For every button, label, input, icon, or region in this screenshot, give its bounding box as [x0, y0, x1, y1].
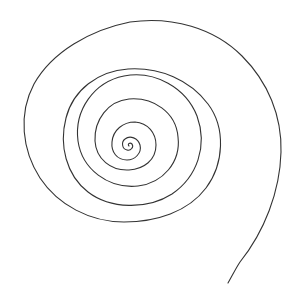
spiral-icon [0, 0, 291, 295]
spiral-drawing-canvas [0, 0, 291, 295]
